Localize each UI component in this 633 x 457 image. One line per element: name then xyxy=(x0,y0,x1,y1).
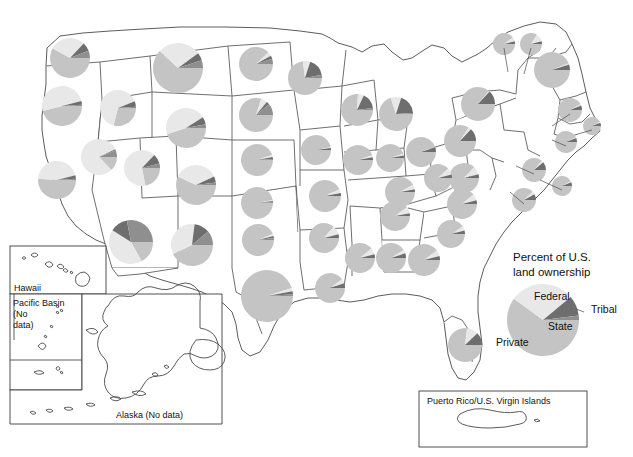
state-pie-vt xyxy=(493,33,515,55)
state-pie-nd-slice-private xyxy=(239,47,273,81)
state-pie-il-slice-private xyxy=(343,145,373,175)
state-pie-mt xyxy=(153,43,203,93)
state-pie-ca-slice-private xyxy=(38,179,76,199)
state-pie-la-slice-private xyxy=(315,273,345,303)
inset-label-pacific-basin-line3: data) xyxy=(13,320,34,330)
state-pie-wy xyxy=(166,108,206,148)
state-pie-me xyxy=(534,52,570,88)
legend-label-federal: Federal xyxy=(534,290,570,302)
state-pie-ks xyxy=(241,187,273,219)
state-pie-nh xyxy=(520,33,542,55)
state-pie-ny xyxy=(461,87,495,121)
us-land-ownership-map-figure: { "figure": { "title": "Percent of U.S. … xyxy=(0,0,633,457)
state-pie-wi xyxy=(341,94,373,126)
state-pie-wa xyxy=(50,38,90,78)
state-pie-nm xyxy=(171,224,213,266)
state-pie-de-slice-private xyxy=(552,176,572,196)
state-pie-md xyxy=(512,188,536,212)
state-pie-az xyxy=(109,220,153,264)
legend-title-line1: Percent of U.S. xyxy=(513,251,591,263)
state-pie-ct xyxy=(555,131,577,153)
legend-label-private: Private xyxy=(496,336,529,348)
legend-title-line2: land ownership xyxy=(513,266,590,278)
state-pie-nc xyxy=(447,189,477,219)
inset-label-hawaii: Hawaii xyxy=(14,283,41,293)
legend-group: Percent of U.S. land ownership Federal T… xyxy=(496,251,617,356)
state-pie-sc xyxy=(437,220,465,248)
state-pie-in xyxy=(376,144,404,172)
state-pie-mn xyxy=(288,61,322,95)
state-pie-ga xyxy=(408,244,440,276)
state-pie-nv xyxy=(81,139,117,175)
inset-label-puerto-rico: Puerto Rico/U.S. Virgin Islands xyxy=(427,396,551,406)
state-pie-va xyxy=(449,163,479,193)
state-pie-al xyxy=(376,243,406,273)
state-pie-ok xyxy=(242,224,274,256)
state-pie-ms-slice-private xyxy=(345,243,375,273)
state-pie-ut xyxy=(124,150,160,186)
state-pie-mi xyxy=(379,97,413,131)
state-pie-co xyxy=(176,165,216,205)
state-pie-oh xyxy=(406,137,436,167)
state-pie-ne xyxy=(241,144,273,176)
state-pie-nc-slice-private xyxy=(447,189,477,219)
state-pie-sd xyxy=(239,98,273,132)
state-pie-nd xyxy=(239,47,273,81)
state-pie-ri xyxy=(583,117,601,135)
state-pie-ks-slice-private xyxy=(241,187,273,219)
state-pie-fl xyxy=(448,328,482,362)
legend-label-tribal: Tribal xyxy=(591,303,617,315)
state-pie-id xyxy=(100,90,136,126)
inset-label-alaska: Alaska (No data) xyxy=(116,410,183,420)
state-pie-la xyxy=(315,273,345,303)
state-pie-wv xyxy=(424,164,452,192)
state-pie-ca xyxy=(38,161,76,199)
state-pie-de xyxy=(552,176,572,196)
state-pie-ga-slice-private xyxy=(408,244,440,276)
state-pie-tx xyxy=(241,270,293,322)
state-pie-vt-slice-private xyxy=(493,33,515,55)
state-pie-pa xyxy=(444,125,476,157)
state-pie-ia xyxy=(301,135,331,165)
state-pie-mo xyxy=(309,180,341,212)
state-pie-il xyxy=(343,145,373,175)
state-pie-tn xyxy=(380,201,410,231)
state-pie-ma xyxy=(558,98,582,122)
map-canvas: Hawaii Pacific Basin (No data) xyxy=(0,0,633,457)
inset-label-pacific-basin-line1: Pacific Basin xyxy=(13,298,65,308)
state-pie-or xyxy=(42,86,82,126)
legend-label-state: State xyxy=(548,320,573,332)
state-pie-ar xyxy=(309,223,339,253)
inset-label-pacific-basin-line2: (No xyxy=(13,309,28,319)
state-pie-ms xyxy=(345,243,375,273)
